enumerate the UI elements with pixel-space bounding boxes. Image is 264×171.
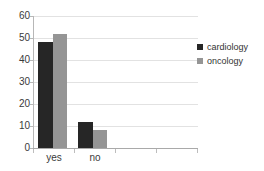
y-tick-label-50: 50 xyxy=(4,33,30,43)
bars-layer xyxy=(34,16,198,148)
y-tick-label-30: 30 xyxy=(4,77,30,87)
x-tick-mark-4 xyxy=(197,149,198,153)
y-tick-label-20: 20 xyxy=(4,99,30,109)
bar-chart: 60 50 40 30 20 10 0 yes no xyxy=(0,0,264,171)
bar-no-cardiology xyxy=(78,122,93,148)
legend-item-oncology: oncology xyxy=(197,55,264,67)
x-tick-mark-1 xyxy=(74,149,75,153)
x-tick-mark-0 xyxy=(33,149,34,153)
legend-item-cardiology: cardiology xyxy=(197,41,264,53)
legend-label-cardiology: cardiology xyxy=(207,42,248,52)
x-tick-mark-3 xyxy=(156,149,157,153)
y-tick-label-10: 10 xyxy=(4,121,30,131)
bar-yes-cardiology xyxy=(38,42,53,148)
x-tick-label-no: no xyxy=(79,152,111,164)
y-axis-line xyxy=(33,16,34,149)
y-tick-label-60: 60 xyxy=(4,11,30,21)
x-tick-label-yes: yes xyxy=(38,152,70,164)
legend-swatch-icon-oncology xyxy=(197,58,203,64)
bar-no-oncology xyxy=(93,130,107,148)
legend-swatch-icon-cardiology xyxy=(197,44,203,50)
x-tick-mark-2 xyxy=(115,149,116,153)
legend-label-oncology: oncology xyxy=(207,56,243,66)
y-tick-label-0: 0 xyxy=(4,143,30,153)
bar-yes-oncology xyxy=(53,34,67,148)
legend: cardiology oncology xyxy=(197,41,264,69)
y-axis-labels: 60 50 40 30 20 10 0 xyxy=(0,0,30,171)
y-tick-label-40: 40 xyxy=(4,55,30,65)
